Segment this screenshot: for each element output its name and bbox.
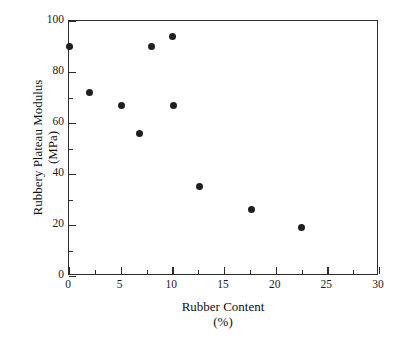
x-axis-tick-label: 20: [269, 279, 281, 291]
x-axis-tick-label: 15: [217, 279, 229, 291]
y-axis-minor-tick: [69, 149, 73, 150]
data-point: [248, 206, 255, 213]
y-axis-minor-tick: [69, 200, 73, 201]
x-axis-title: Rubber Content (%): [68, 299, 378, 330]
x-axis-tick-label: 30: [372, 279, 384, 291]
data-point: [169, 33, 176, 40]
data-point: [148, 43, 155, 50]
data-point: [118, 102, 125, 109]
y-axis-title: Rubbery Plateau Modulus (MPa): [30, 20, 60, 275]
x-axis-major-tick: [327, 267, 328, 274]
x-axis-major-tick: [379, 267, 380, 274]
x-axis-major-tick: [224, 267, 225, 274]
x-axis-tick-label: 10: [166, 279, 178, 291]
x-axis-minor-tick: [353, 270, 354, 274]
x-axis-tick-label: 5: [117, 279, 123, 291]
x-axis-major-tick: [276, 267, 277, 274]
y-axis-major-tick: [69, 225, 76, 226]
x-axis-tick-label: 25: [321, 279, 333, 291]
x-axis-major-tick: [121, 267, 122, 274]
y-axis-minor-tick: [69, 251, 73, 252]
y-axis-title-unit: (MPa): [45, 20, 60, 275]
data-point: [298, 224, 305, 231]
data-point: [170, 102, 177, 109]
x-axis-major-tick: [172, 267, 173, 274]
x-axis-title-unit: (%): [68, 314, 378, 329]
x-axis-title-text: Rubber Content: [182, 299, 265, 314]
data-point: [196, 183, 203, 190]
data-point: [66, 43, 73, 50]
x-axis-minor-tick: [198, 270, 199, 274]
x-axis-minor-tick: [250, 270, 251, 274]
data-point: [136, 130, 143, 137]
y-axis-major-tick: [69, 174, 76, 175]
y-axis-major-tick: [69, 72, 76, 73]
x-axis-minor-tick: [95, 270, 96, 274]
x-axis-major-tick: [69, 267, 70, 274]
scatter-plot-figure: 051015202530 020406080100 Rubber Content…: [0, 0, 396, 338]
x-axis-minor-tick: [147, 270, 148, 274]
x-axis-tick-label: 0: [65, 279, 71, 291]
y-axis-minor-tick: [69, 98, 73, 99]
y-axis-major-tick: [69, 123, 76, 124]
x-axis-minor-tick: [302, 270, 303, 274]
y-axis-major-tick: [69, 21, 76, 22]
plot-area: [68, 20, 378, 275]
data-point: [86, 89, 93, 96]
y-axis-title-text: Rubbery Plateau Modulus: [30, 80, 45, 216]
